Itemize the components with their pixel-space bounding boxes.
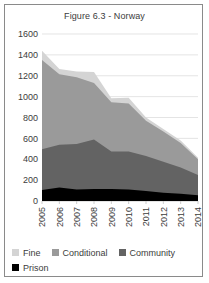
square-swatch-icon <box>52 249 59 256</box>
legend-row-2: Prison <box>12 260 202 275</box>
x-axis-tick-label: 2012 <box>159 207 169 227</box>
legend-item-prison[interactable]: Prison <box>12 263 49 273</box>
y-axis-tick-label: 400 <box>23 154 38 164</box>
x-axis-tick-label: 2014 <box>193 207 203 227</box>
y-axis-tick-label: 200 <box>23 175 38 185</box>
legend-label: Prison <box>23 263 49 273</box>
y-axis-tick-label: 1200 <box>18 71 38 81</box>
y-axis-tick-label: 1600 <box>18 29 38 39</box>
y-axis-tick-label: 1000 <box>18 92 38 102</box>
legend-row-1: Fine Conditional Community <box>12 245 202 260</box>
figure-frame: Figure 6.3 - Norway 02004006008001000120… <box>4 4 203 277</box>
legend-label: Fine <box>23 248 41 258</box>
stacked-area-chart: 0200400600800100012001400160020052006200… <box>5 5 204 278</box>
x-axis-tick-label: 2006 <box>55 207 65 227</box>
chart-legend: Fine Conditional Community Prison <box>12 245 202 275</box>
x-axis-tick-label: 2008 <box>89 207 99 227</box>
plot-area: 0200400600800100012001400160020052006200… <box>5 5 204 278</box>
x-axis-tick-label: 2007 <box>72 207 82 227</box>
square-swatch-icon <box>12 249 19 256</box>
y-axis-tick-label: 0 <box>33 196 38 206</box>
legend-label: Conditional <box>63 248 108 258</box>
legend-item-fine[interactable]: Fine <box>12 248 41 258</box>
y-axis-tick-label: 600 <box>23 134 38 144</box>
square-swatch-icon <box>12 264 19 271</box>
legend-item-community[interactable]: Community <box>119 248 176 258</box>
x-axis-tick-label: 2013 <box>176 207 186 227</box>
legend-item-conditional[interactable]: Conditional <box>52 248 108 258</box>
legend-label: Community <box>130 248 176 258</box>
x-axis-tick-label: 2009 <box>107 207 117 227</box>
x-axis-tick-label: 2011 <box>141 207 151 226</box>
x-axis-tick-label: 2005 <box>37 207 47 227</box>
y-axis-tick-label: 1400 <box>18 50 38 60</box>
square-swatch-icon <box>119 249 126 256</box>
x-axis-tick-label: 2010 <box>124 207 134 227</box>
y-axis-tick-label: 800 <box>23 113 38 123</box>
